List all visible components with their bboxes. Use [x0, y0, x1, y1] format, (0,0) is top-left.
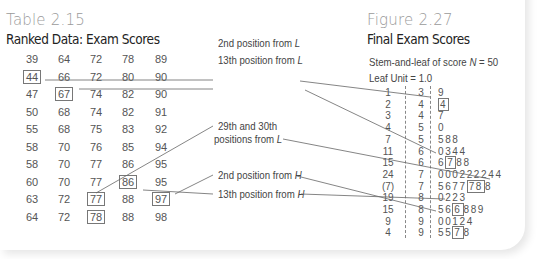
connector-13th-from-L-right: [305, 90, 436, 153]
connector-2nd-from-H-right: [297, 176, 436, 211]
connector-middle-right: [283, 139, 490, 179]
connector-13th-from-H-left: [143, 190, 213, 194]
connector-lines: [0, 0, 546, 259]
connector-2nd-from-L-right: [300, 81, 430, 97]
connector-middle-left: [96, 126, 213, 193]
connector-2nd-from-H-left: [175, 175, 213, 194]
